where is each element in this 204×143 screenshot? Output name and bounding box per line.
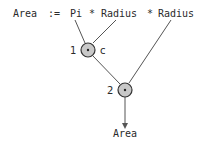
- multiply-dot-icon: [87, 49, 89, 51]
- output-label: Area: [113, 128, 137, 139]
- node-1-label: 1: [70, 45, 76, 56]
- op-multiply-2: *: [147, 8, 153, 19]
- node-2-label: 2: [107, 85, 113, 96]
- operand-radius-2: Radius: [158, 8, 194, 19]
- op-multiply-1: *: [89, 8, 95, 19]
- edge-pi-node1: [75, 20, 85, 43]
- edge-node1-node2: [93, 56, 120, 84]
- operator-node-1: [81, 43, 95, 57]
- edge-radius2-node2: [129, 20, 171, 83]
- node-1-annotation: c: [100, 45, 106, 56]
- operand-radius-1: Radius: [101, 8, 137, 19]
- edge-radius1-node1: [93, 20, 116, 43]
- operator-node-2: [118, 83, 132, 97]
- assign-op: :=: [48, 8, 60, 19]
- expression-tree-diagram: Area := Pi * Radius * Radius 1 c 2 Area: [0, 0, 204, 143]
- target-var: Area: [13, 8, 37, 19]
- operand-pi: Pi: [70, 8, 82, 19]
- multiply-dot-icon: [124, 89, 126, 91]
